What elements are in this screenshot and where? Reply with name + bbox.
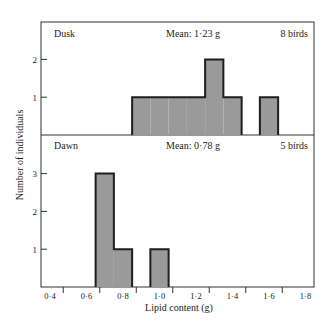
- x-tick-label: 0·6: [81, 291, 92, 301]
- x-tick-label: 0·8: [117, 291, 128, 301]
- histogram-bar: [223, 97, 241, 135]
- x-tick-label: 0·4: [44, 291, 56, 301]
- dusk-count-label: 8 birds: [281, 28, 309, 39]
- dusk-mean-label: Mean: 1·23 g: [166, 28, 220, 39]
- histogram-bar: [205, 59, 223, 135]
- histogram-bar: [150, 249, 168, 287]
- histogram-chart: 12123 0·40·60·81·01·21·41·61·8 Dusk Mean…: [0, 0, 331, 329]
- x-tick-label: 1·0: [154, 291, 165, 301]
- x-axis-ticks: 0·40·60·81·01·21·41·61·8: [44, 287, 311, 301]
- dawn-mean-label: Mean: 0·78 g: [166, 140, 220, 151]
- histogram-bar: [114, 249, 132, 287]
- dusk-bars: [132, 59, 278, 135]
- y-tick-label: 2: [33, 55, 38, 65]
- x-axis-label: Lipid content (g): [145, 302, 213, 314]
- y-tick-label: 1: [33, 93, 38, 103]
- x-tick-label: 1·2: [190, 291, 201, 301]
- plot-frame: [41, 22, 314, 287]
- dawn-bars: [96, 174, 169, 287]
- histogram-bar: [132, 97, 150, 135]
- histogram-bar: [150, 97, 168, 135]
- y-tick-label: 1: [33, 245, 38, 255]
- dawn-panel-label: Dawn: [54, 140, 78, 151]
- dawn-count-label: 5 birds: [281, 140, 309, 151]
- histogram-bar: [96, 174, 114, 287]
- x-tick-label: 1·4: [227, 291, 239, 301]
- y-axis-ticks: 12123: [33, 55, 48, 255]
- x-tick-label: 1·8: [300, 291, 311, 301]
- dusk-panel-label: Dusk: [54, 28, 75, 39]
- histogram-bar: [260, 97, 278, 135]
- x-tick-label: 1·6: [263, 291, 274, 301]
- y-tick-label: 3: [33, 169, 38, 179]
- histogram-bar: [187, 97, 205, 135]
- histogram-bar: [169, 97, 187, 135]
- y-axis-label: Number of individuals: [14, 110, 25, 201]
- y-tick-label: 2: [33, 207, 38, 217]
